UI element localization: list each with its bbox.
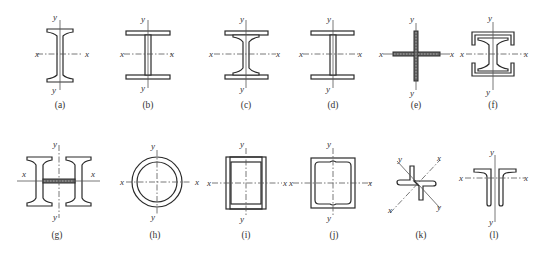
svg-text:y: y [488, 217, 493, 227]
svg-text:x: x [119, 49, 124, 59]
caption-d: (d) [327, 100, 338, 110]
section-l: yxxy [458, 147, 528, 227]
svg-text:y: y [52, 12, 57, 22]
svg-text:x: x [84, 49, 89, 59]
svg-text:y: y [326, 14, 331, 24]
section-b: yxxy [119, 14, 174, 93]
svg-text:y: y [409, 88, 414, 98]
svg-text:y: y [326, 139, 331, 149]
svg-text:x: x [169, 49, 174, 59]
section-d: yxxy [298, 14, 362, 94]
caption-b: (b) [142, 100, 153, 110]
svg-text:y: y [140, 83, 145, 93]
svg-text:x: x [367, 178, 372, 188]
svg-text:y: y [325, 84, 330, 94]
svg-text:y: y [51, 85, 56, 95]
svg-text:x: x [449, 49, 454, 59]
section-e: yxxy [378, 14, 454, 98]
svg-text:x: x [288, 178, 293, 188]
svg-text:y: y [239, 14, 244, 24]
svg-text:y: y [487, 13, 492, 23]
section-c: yxxy [208, 14, 280, 94]
svg-text:y: y [326, 213, 331, 223]
section-j: yxxy [288, 139, 372, 223]
svg-text:y: y [140, 14, 145, 24]
svg-text:x: x [208, 49, 213, 59]
svg-text:x: x [298, 49, 303, 59]
caption-j: (j) [330, 230, 339, 240]
svg-text:x: x [194, 177, 199, 187]
svg-text:y: y [397, 154, 402, 164]
caption-a: (a) [55, 100, 66, 110]
svg-text:y: y [150, 141, 155, 151]
caption-c: (c) [241, 100, 252, 110]
svg-text:x: x [119, 177, 124, 187]
caption-g: (g) [51, 230, 62, 240]
section-f: yxxy [459, 13, 528, 97]
caption-f: (f) [488, 100, 498, 110]
svg-text:x: x [282, 178, 287, 188]
svg-text:y: y [409, 14, 414, 24]
svg-text:x: x [90, 169, 95, 179]
section-i: yxxy [206, 139, 287, 224]
svg-text:x: x [458, 173, 463, 183]
section-g: yxxy [17, 139, 100, 222]
caption-l: (l) [490, 230, 499, 240]
svg-text:x: x [275, 49, 280, 59]
svg-text:x: x [523, 49, 528, 59]
caption-e: (e) [411, 100, 422, 110]
svg-text:y: y [52, 139, 57, 149]
svg-text:y: y [239, 84, 244, 94]
section-h: yxxy [119, 141, 199, 222]
svg-text:y: y [52, 212, 57, 222]
svg-text:x: x [378, 49, 383, 59]
svg-text:x: x [523, 173, 528, 183]
svg-text:y: y [239, 139, 244, 149]
section-a: yxxy [34, 12, 89, 95]
svg-text:x: x [387, 205, 392, 215]
svg-text:x: x [357, 49, 362, 59]
caption-i: (i) [242, 230, 251, 240]
svg-text:y: y [436, 202, 441, 212]
svg-text:x: x [206, 178, 211, 188]
caption-h: (h) [149, 230, 160, 240]
section-k: yxxy [387, 153, 441, 215]
cross-sections-diagram: yxxy yxxy yxxy yxxy yxxy [0, 0, 543, 258]
svg-text:y: y [485, 87, 490, 97]
svg-text:y: y [150, 212, 155, 222]
figure-canvas: yxxy yxxy yxxy yxxy yxxy [0, 0, 543, 258]
svg-text:x: x [459, 49, 464, 59]
svg-text:y: y [239, 214, 244, 224]
caption-k: (k) [415, 230, 426, 240]
svg-text:x: x [436, 153, 441, 163]
svg-text:x: x [34, 49, 39, 59]
svg-text:y: y [489, 147, 494, 157]
svg-text:x: x [21, 169, 26, 179]
